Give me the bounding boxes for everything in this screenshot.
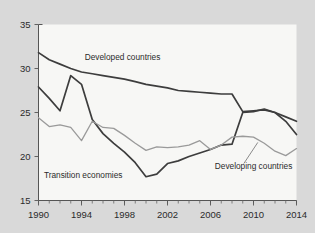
x-tick-label: 2014 xyxy=(286,209,307,220)
figure-bottom-margin xyxy=(0,233,315,246)
line-chart: 15202530351990199419982002200620102014De… xyxy=(0,0,315,233)
x-tick-label: 1998 xyxy=(114,209,135,220)
annotation-transition-economies: Transition economies xyxy=(44,170,123,180)
y-tick-label: 20 xyxy=(20,151,31,162)
annotation-developing-countries: Developing countries xyxy=(215,161,292,171)
x-tick-label: 2002 xyxy=(157,209,178,220)
y-tick-label: 15 xyxy=(20,195,31,206)
annotation-developed-countries: Developed countries xyxy=(85,52,161,62)
chart-figure: 15202530351990199419982002200620102014De… xyxy=(0,0,315,233)
x-tick-label: 1990 xyxy=(28,209,49,220)
y-tick-label: 35 xyxy=(20,19,31,30)
x-tick-label: 2006 xyxy=(200,209,221,220)
y-tick-label: 30 xyxy=(20,63,31,74)
x-tick-label: 1994 xyxy=(71,209,92,220)
x-tick-label: 2010 xyxy=(243,209,264,220)
y-tick-label: 25 xyxy=(20,107,31,118)
